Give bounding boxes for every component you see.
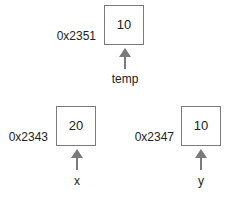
memory-box-temp: 10 (104, 5, 144, 45)
variable-label-temp: temp (105, 72, 145, 86)
value-y: 10 (194, 118, 208, 133)
arrow-up-icon (194, 148, 208, 170)
variable-label-y: y (181, 174, 221, 188)
address-label-temp: 0x2351 (52, 29, 96, 43)
memory-box-y: 10 (181, 106, 221, 146)
memory-box-x: 20 (56, 106, 96, 146)
value-x: 20 (69, 118, 83, 133)
variable-label-x: x (57, 174, 97, 188)
arrow-up-icon (70, 148, 84, 170)
arrow-up-icon (118, 47, 132, 69)
address-label-x: 0x2343 (4, 130, 48, 144)
address-label-y: 0x2347 (130, 130, 174, 144)
value-temp: 10 (117, 17, 131, 32)
